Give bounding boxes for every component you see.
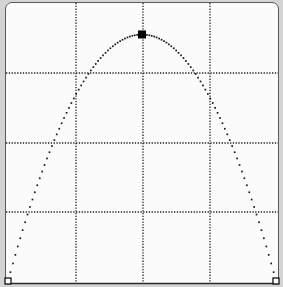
curve-dot [56, 134, 58, 136]
curve-dot [124, 38, 126, 40]
curve-dot [58, 128, 60, 130]
grid-lines [5, 3, 279, 284]
curve-dot [224, 128, 226, 130]
curve-dot [168, 44, 170, 46]
curve-dot [15, 254, 17, 256]
curve-dot [63, 117, 65, 119]
curve-dot [268, 254, 270, 256]
curve-dot [248, 191, 250, 193]
curve-dot [219, 117, 221, 119]
curve-dot [10, 271, 12, 273]
curve-dot [102, 55, 104, 57]
curve-dot [214, 107, 216, 109]
peak-handle-icon[interactable] [138, 30, 146, 38]
curve-dot [46, 158, 48, 160]
curve-dot [170, 45, 172, 47]
curve-dot [185, 60, 187, 62]
curve-dot [161, 39, 163, 41]
curve-dot [258, 221, 260, 223]
curve-dot [251, 199, 253, 201]
curve-dot [39, 177, 41, 179]
curve-dot [132, 35, 134, 37]
curve-dot [71, 102, 73, 104]
curve-dot [49, 151, 51, 153]
curve-dot [166, 42, 168, 44]
curve-dot [90, 70, 92, 72]
curve-dot [95, 63, 97, 65]
curve-dot [149, 34, 151, 36]
curve-dot [246, 184, 248, 186]
curve-dot [178, 52, 180, 54]
curve-dot [41, 171, 43, 173]
curve-markers[interactable] [5, 30, 279, 284]
curve-dot [188, 63, 190, 65]
curve-dot [110, 47, 112, 49]
curve-dot [200, 81, 202, 83]
curve-dot [190, 66, 192, 68]
curve-dot [22, 229, 24, 231]
curve-dot [66, 112, 68, 114]
parabola-chart [0, 0, 283, 287]
curve-dot [197, 77, 199, 79]
curve-dot [78, 89, 80, 91]
curve-dot [241, 171, 243, 173]
curve-dot [105, 52, 107, 54]
curve-dot [266, 246, 268, 248]
curve-dot [173, 47, 175, 49]
curve-dot [212, 102, 214, 104]
curve-dot [227, 134, 229, 136]
curve-dot [270, 263, 272, 265]
curve-dot [107, 50, 109, 52]
curve-dot [195, 73, 197, 75]
curve-dot [34, 191, 36, 193]
curve-dot [51, 145, 53, 147]
curve-dot [29, 206, 31, 208]
curve-dot [129, 36, 131, 38]
curve-dot [158, 38, 160, 40]
curve-dot [236, 158, 238, 160]
curve-dot [17, 246, 19, 248]
curve-dot [88, 73, 90, 75]
curve-dot [114, 44, 116, 46]
curve-dot [183, 57, 185, 59]
curve-dot [112, 45, 114, 47]
curve-dot [234, 151, 236, 153]
curve-dot [163, 40, 165, 42]
curve-dot [75, 93, 77, 95]
curve-dot [209, 98, 211, 100]
curve-dot [68, 107, 70, 109]
curve-dot [175, 50, 177, 52]
curve-dot [134, 34, 136, 36]
curve-dot [44, 164, 46, 166]
curve-dot [136, 34, 138, 36]
curve-dot [151, 35, 153, 37]
curve-dot [73, 98, 75, 100]
curve-dot [80, 85, 82, 87]
curve-dot [153, 36, 155, 38]
curve-dot [61, 122, 63, 124]
curve-dot [273, 271, 275, 273]
curve-dot [119, 40, 121, 42]
parabola-curve [7, 34, 277, 282]
curve-dot [19, 237, 21, 239]
curve-dot [85, 77, 87, 79]
curve-dot [229, 139, 231, 141]
start-handle-icon[interactable] [5, 278, 11, 284]
end-handle-icon[interactable] [273, 278, 279, 284]
curve-dot [205, 89, 207, 91]
curve-dot [97, 60, 99, 62]
curve-dot [222, 122, 224, 124]
curve-dot [93, 66, 95, 68]
curve-dot [146, 34, 148, 36]
curve-dot [32, 199, 34, 201]
curve-dot [244, 177, 246, 179]
curve-dot [180, 55, 182, 57]
curve-dot [83, 81, 85, 83]
curve-dot [127, 37, 129, 39]
curve-dot [54, 139, 56, 141]
curve-dot [192, 70, 194, 72]
curve-dot [202, 85, 204, 87]
curve-dot [36, 184, 38, 186]
curve-dot [100, 57, 102, 59]
curve-dot [207, 93, 209, 95]
